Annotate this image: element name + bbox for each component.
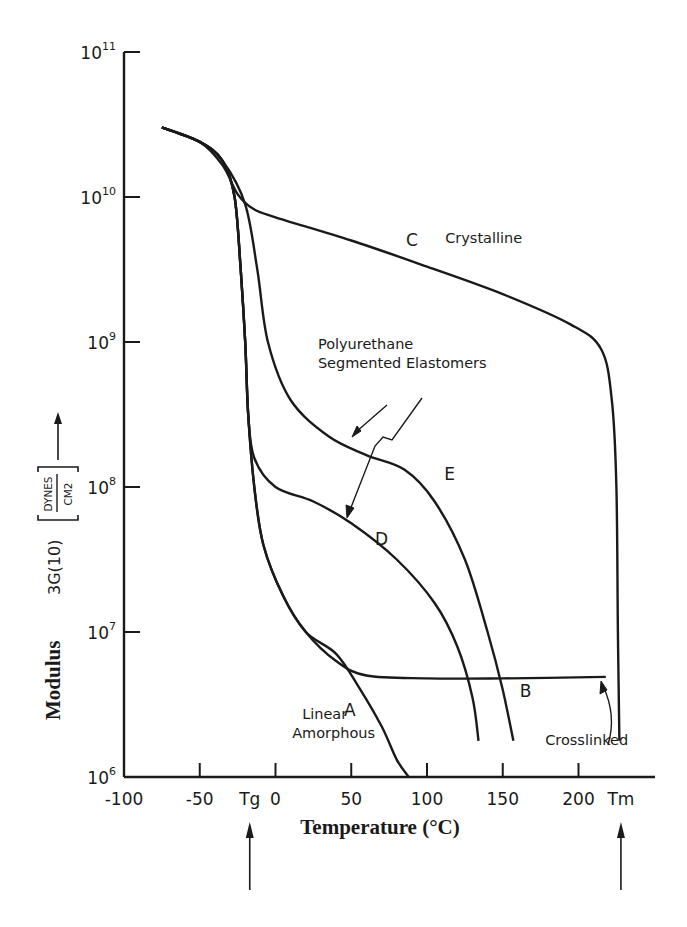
annotation-crosslinked: Crosslinked — [545, 732, 628, 748]
pointer-e-head — [352, 426, 361, 437]
pointer-d-head — [346, 505, 354, 518]
annotation-crystalline: Crystalline — [445, 230, 522, 246]
curve-label-c: C — [406, 230, 418, 250]
y-tick-label: 109 — [87, 330, 116, 353]
axes — [124, 52, 655, 890]
x-tick-label: -100 — [105, 789, 144, 809]
labels: 10111010109108107106-100-50050100150200T… — [38, 40, 634, 839]
unit-denominator: CM2 — [62, 482, 74, 505]
annotation-linear: LinearAmorphous — [292, 706, 375, 741]
pointer-d-arrow — [350, 398, 422, 510]
x-tick-label: -50 — [186, 789, 214, 809]
curve-b — [162, 127, 606, 678]
pointer-e-arrow — [356, 405, 387, 432]
y-axis-title-expr: 3G(10) — [45, 540, 64, 595]
curve-c — [162, 127, 620, 740]
unit-numerator: DYNES — [42, 476, 54, 511]
y-axis-title-main: Modulus — [41, 641, 65, 720]
arrow-tg-head — [246, 822, 254, 838]
curve-label-b: B — [520, 681, 532, 701]
x-marker-tg: Tg — [238, 789, 260, 809]
y-axis-arrow-head — [54, 412, 62, 424]
y-axis-title: Modulus3G(10)DYNESCM2 — [38, 412, 78, 720]
annotation-polyurethane: PolyurethaneSegmented Elastomers — [318, 336, 487, 371]
arrow-tm-head — [617, 822, 625, 838]
x-tick-label: 100 — [411, 789, 443, 809]
y-tick-label: 107 — [87, 620, 116, 643]
x-axis-title: Temperature (°C) — [300, 815, 459, 839]
curve-a — [162, 127, 409, 777]
x-tick-label: 200 — [562, 789, 594, 809]
curve-e — [162, 127, 514, 740]
x-tick-label: 50 — [340, 789, 362, 809]
curves — [162, 127, 620, 777]
bracket-right — [38, 467, 78, 472]
y-tick-label: 108 — [87, 475, 116, 498]
y-tick-label: 1011 — [80, 40, 116, 63]
x-tick-label: 0 — [270, 789, 281, 809]
curve-label-e: E — [444, 464, 455, 484]
y-tick-label: 106 — [87, 765, 116, 788]
modulus-temperature-chart: 10111010109108107106-100-50050100150200T… — [0, 0, 687, 927]
x-marker-tm: Tm — [606, 789, 634, 809]
x-tick-label: 150 — [487, 789, 519, 809]
bracket-left — [38, 515, 78, 520]
y-tick-label: 1010 — [80, 185, 116, 208]
curve-label-d: D — [375, 529, 388, 549]
